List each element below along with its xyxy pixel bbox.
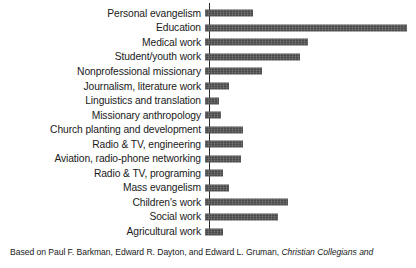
category-label: Student/youth work [0,51,205,62]
category-label: Personal evangelism [0,8,205,19]
bar [205,141,243,148]
chart-row: Agricultural work [0,224,416,239]
bar [205,155,241,162]
category-label: Radio & TV, engineering [0,139,205,150]
category-label: Linguistics and translation [0,95,205,106]
bar-cell [205,79,416,94]
bar [205,68,262,75]
bar-cell [205,181,416,196]
chart-row: Education [0,21,416,36]
category-label: Children's work [0,197,205,208]
category-label: Medical work [0,37,205,48]
chart-row: Personal evangelism [0,6,416,21]
chart-row: Mass evangelism [0,181,416,196]
bar-cell [205,224,416,239]
bar-cell [205,210,416,225]
bar-cell [205,137,416,152]
caption-lead: Based on Paul F. Barkman, Edward R. Dayt… [10,247,281,257]
category-label: Agricultural work [0,226,205,237]
chart-row: Journalism, literature work [0,79,416,94]
bar [205,228,223,235]
chart-row: Radio & TV, programing [0,166,416,181]
bar-cell [205,108,416,123]
chart-row: Church planting and development [0,122,416,137]
bar [205,213,278,220]
bar-cell [205,195,416,210]
chart-row: Missionary anthropology [0,108,416,123]
category-label: Mass evangelism [0,182,205,193]
chart-row: Radio & TV, engineering [0,137,416,152]
figure-caption: Based on Paul F. Barkman, Edward R. Dayt… [10,247,410,258]
chart-row: Social work [0,210,416,225]
chart-row: Linguistics and translation [0,93,416,108]
category-label: Social work [0,211,205,222]
bar-cell [205,93,416,108]
bar [205,24,407,31]
category-label: Journalism, literature work [0,81,205,92]
bar-cell [205,64,416,79]
chart-row: Children's work [0,195,416,210]
category-label: Radio & TV, programing [0,168,205,179]
bar [205,39,308,46]
category-label: Aviation, radio-phone networking [0,153,205,164]
caption-source-title: Christian Collegians and [281,247,373,257]
bar-cell [205,6,416,21]
chart-row: Aviation, radio-phone networking [0,152,416,167]
bar-cell [205,122,416,137]
figure: Personal evangelismEducationMedical work… [0,0,416,268]
chart-row: Medical work [0,35,416,50]
chart-row: Student/youth work [0,50,416,65]
bar [205,184,229,191]
bar-cell [205,21,416,36]
bar [205,126,243,133]
bar-chart: Personal evangelismEducationMedical work… [0,0,416,236]
category-label: Missionary anthropology [0,110,205,121]
bar [205,10,253,17]
bar [205,199,288,206]
category-label: Nonprofessional missionary [0,66,205,77]
bar [205,83,229,90]
bar-cell [205,152,416,167]
bar [205,170,223,177]
bar-cell [205,166,416,181]
bar-cell [205,35,416,50]
bar [205,97,219,104]
bar-cell [205,50,416,65]
bar [205,53,300,60]
category-label: Education [0,22,205,33]
category-label: Church planting and development [0,124,205,135]
bar [205,112,221,119]
chart-row: Nonprofessional missionary [0,64,416,79]
